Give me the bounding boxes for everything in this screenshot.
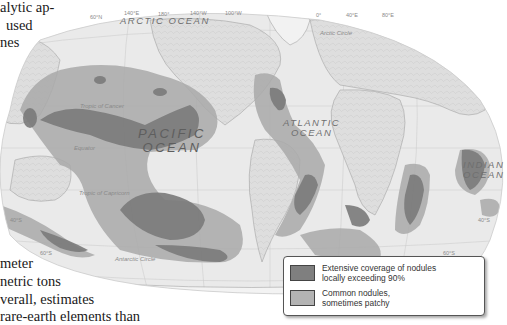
legend-item-extensive: Extensive coverage of nodules locally ex…	[290, 264, 482, 283]
tropic-cancer-label: Tropic of Cancer	[80, 103, 124, 109]
legend-label-extensive: Extensive coverage of nodules locally ex…	[322, 264, 482, 283]
indian-ocean-label: INDIAN OCEAN	[463, 160, 504, 180]
grid-label-80e: 80°E	[382, 12, 394, 18]
map-legend: Extensive coverage of nodules locally ex…	[283, 256, 485, 316]
grid-label-140w: 140°W	[190, 10, 207, 16]
grid-label-40e: 40°E	[346, 12, 358, 18]
antarctic-circle-label: Antarctic Circle	[115, 256, 155, 262]
grid-label-60n: 60°N	[90, 14, 102, 20]
arctic-circle-label: Arctic Circle	[320, 30, 352, 36]
grid-label-140e: 140°E	[124, 10, 139, 16]
pacific-ocean-label: PACIFIC OCEAN	[138, 127, 206, 155]
grid-label-40s-left: 40°S	[10, 217, 22, 223]
tropic-capricorn-label: Tropic of Capricorn	[79, 190, 130, 196]
grid-label-0: 0°	[316, 12, 321, 18]
grid-label-60s-left: 60°S	[40, 250, 52, 256]
pacific-label-line2: OCEAN	[138, 141, 206, 155]
pacific-label-line1: PACIFIC	[138, 127, 206, 141]
legend-swatch-extensive	[290, 265, 315, 281]
indian-label-line2: OCEAN	[463, 170, 504, 180]
grid-label-100w: 100°W	[225, 10, 242, 16]
legend-label-line: locally exceeding 90%	[322, 274, 482, 284]
equator-label: Equator	[74, 145, 95, 151]
legend-item-common: Common nodules, sometimes patchy	[290, 289, 482, 308]
atlantic-ocean-label: ATLANTIC OCEAN	[283, 118, 340, 138]
atlantic-label-line2: OCEAN	[283, 128, 340, 138]
legend-label-line: sometimes patchy	[322, 299, 482, 309]
grid-label-40s-right: 40°S	[478, 217, 490, 223]
arctic-ocean-label: ARCTIC OCEAN	[120, 16, 210, 26]
legend-label-common: Common nodules, sometimes patchy	[322, 289, 482, 308]
grid-label-180: 180°	[158, 11, 169, 17]
legend-swatch-common	[290, 290, 315, 306]
